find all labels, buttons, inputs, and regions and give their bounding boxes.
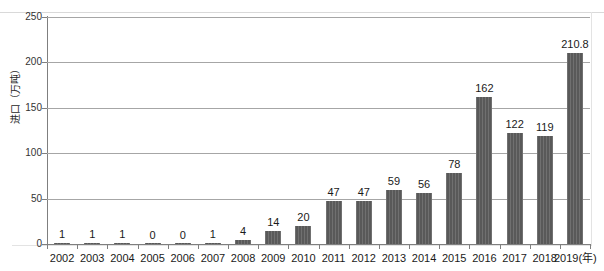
x-axis-tick-mark: [500, 245, 501, 249]
bar-value-label: 20: [283, 212, 323, 223]
bar: [567, 53, 583, 244]
y-axis-tick-label: 0: [14, 239, 42, 249]
x-axis-tick-mark: [319, 245, 320, 249]
x-axis-tick-mark: [138, 245, 139, 249]
x-axis-tick-mark: [288, 245, 289, 249]
gridline: [47, 108, 590, 109]
bar: [295, 226, 311, 244]
bar: [326, 201, 342, 244]
bar-value-label: 162: [464, 83, 504, 94]
bar: [446, 173, 462, 244]
x-axis-tick-mark: [409, 245, 410, 249]
bar: [205, 243, 221, 244]
x-axis-tick-mark: [107, 245, 108, 249]
x-axis-tick-mark: [530, 245, 531, 249]
gridline: [47, 62, 590, 63]
y-axis-tick-label: 50: [14, 194, 42, 204]
x-axis-tick-mark: [77, 245, 78, 249]
chart-frame-top-border: [0, 12, 604, 13]
bar-value-label: 119: [525, 122, 565, 133]
bar-value-label: 210.8: [555, 39, 595, 50]
bar: [175, 243, 191, 244]
x-axis-tick-mark: [379, 245, 380, 249]
x-axis-tick-mark: [47, 245, 48, 249]
bar: [235, 240, 251, 244]
y-axis-tick-label: 250: [14, 12, 42, 22]
bar-chart: 进口（万吨） 050100150200250 11100141420474759…: [0, 0, 604, 271]
bar: [476, 97, 492, 244]
bar-value-label: 78: [434, 159, 474, 170]
bar: [114, 243, 130, 244]
bar: [265, 231, 281, 244]
bar: [54, 243, 70, 244]
bar-value-label: 47: [344, 187, 384, 198]
bar: [145, 243, 161, 244]
x-axis-tick-mark: [228, 245, 229, 249]
x-axis-tick-mark: [349, 245, 350, 249]
chart-frame-bottom-border: [12, 245, 592, 246]
y-axis-tick-label: 200: [14, 57, 42, 67]
gridline: [47, 17, 590, 18]
y-axis-tick-label: 150: [14, 103, 42, 113]
bar: [507, 133, 523, 244]
x-axis-tick-mark: [560, 245, 561, 249]
x-axis-tick-mark: [168, 245, 169, 249]
bar: [416, 193, 432, 244]
y-axis-tick-label: 100: [14, 148, 42, 158]
bar: [84, 243, 100, 244]
x-axis-tick-mark: [469, 245, 470, 249]
x-axis-tick-mark: [258, 245, 259, 249]
x-axis-category-label: 2019(年): [554, 252, 596, 265]
bar: [537, 136, 553, 244]
x-axis-tick-mark: [590, 245, 591, 249]
bar: [356, 201, 372, 244]
bar-value-label: 56: [404, 179, 444, 190]
bar: [386, 190, 402, 244]
x-axis-tick-mark: [198, 245, 199, 249]
plot-area: [47, 17, 590, 244]
x-axis-tick-mark: [439, 245, 440, 249]
